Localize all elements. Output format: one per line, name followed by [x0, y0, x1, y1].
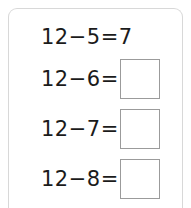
problem-expression: 12−6= [41, 69, 119, 90]
answer-value: 7 [119, 27, 132, 48]
answer-box[interactable] [120, 109, 160, 149]
answer-box[interactable] [120, 59, 160, 99]
problem-expression: 12−7= [41, 119, 119, 140]
problem-row: 12−8= [9, 157, 182, 195]
problem-row: 12−7= [9, 107, 182, 151]
answer-box[interactable] [120, 159, 160, 195]
worksheet-card: 12−5= 7 12−6= 12−7= 12−8= [8, 8, 183, 195]
problem-expression: 12−5= [41, 27, 119, 48]
problem-expression: 12−8= [41, 169, 119, 190]
problem-row: 12−5= 7 [9, 15, 182, 59]
problem-row: 12−6= [9, 57, 182, 101]
